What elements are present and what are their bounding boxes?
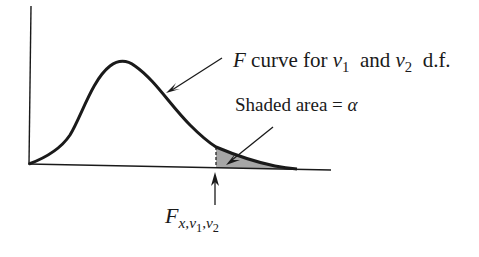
critical-x-subscript: x, [178, 214, 189, 231]
alpha-symbol: α [348, 94, 358, 115]
critical-nu2-subscript: 2 [213, 222, 219, 236]
curve-label-text-2: and [349, 48, 395, 72]
curve-label: F curve for ν1 and ν2 d.f. [233, 48, 451, 73]
shaded-area-label: Shaded area = α [235, 94, 358, 116]
f-symbol: F [233, 48, 246, 72]
nu2-symbol: ν [395, 48, 404, 72]
curve-pointer-arrow [166, 58, 222, 93]
critical-nu2-symbol: ν [206, 214, 213, 231]
critical-value-pointer-arrow [211, 172, 219, 205]
critical-f-symbol: F [165, 203, 178, 228]
nu1-symbol: ν [333, 48, 342, 72]
critical-value-label: Fx,ν1,ν2 [165, 203, 219, 229]
f-distribution-diagram [0, 0, 479, 257]
shaded-area-text: Shaded area = [235, 94, 348, 115]
curve-label-text-1: curve for [246, 48, 333, 72]
y-axis [29, 6, 31, 164]
curve-label-text-3: d.f. [412, 48, 451, 72]
critical-nu1-symbol: ν [189, 214, 196, 231]
